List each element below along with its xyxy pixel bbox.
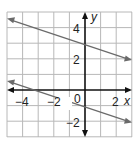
y-tick-2: 2 <box>73 53 80 67</box>
x-tick-neg4: −4 <box>15 95 29 109</box>
x-tick-neg2: −2 <box>47 95 61 109</box>
x-tick-2: 2 <box>112 95 119 109</box>
x-axis-arrow-right-icon <box>125 87 132 93</box>
y-axis-arrow-up-icon <box>82 12 88 19</box>
arrowhead-icon <box>7 80 15 86</box>
y-tick-4: 4 <box>73 22 80 36</box>
origin-label: 0 <box>74 92 81 106</box>
y-axis-arrow-down-icon <box>82 130 88 137</box>
y-tick-neg2: −2 <box>66 116 80 130</box>
arrowhead-icon <box>7 17 15 23</box>
x-axis-arrow-left-icon <box>7 87 14 93</box>
coordinate-plane: y x 0 −4 −2 2 4 2 −2 <box>0 0 138 141</box>
x-axis-label: x <box>123 94 131 108</box>
y-axis-label: y <box>90 10 98 24</box>
